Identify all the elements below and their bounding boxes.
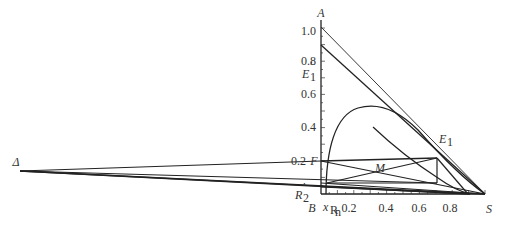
svg-text:1: 1: [447, 135, 453, 149]
line-E1p-S: [321, 45, 485, 194]
y-tick-label: 1.0: [301, 24, 316, 38]
hypotenuse-AS: [321, 27, 485, 194]
svg-text:x: x: [322, 200, 329, 214]
svg-text:′: ′: [310, 59, 313, 73]
svg-text:′: ′: [303, 180, 306, 194]
x-tick-label: 0.4: [379, 201, 394, 215]
y-tick-label: 0.6: [301, 87, 316, 101]
svg-text:R: R: [294, 188, 303, 202]
svg-text:E: E: [438, 132, 447, 146]
label-S: S: [486, 202, 492, 216]
label-delta: Δ: [11, 155, 19, 169]
y-tick-label: 0.4: [301, 120, 316, 134]
ternary-diagram: 1.0 0.8 0.6 0.4 0.2 0.2 0.4 0.6 0.8 A B …: [0, 0, 507, 225]
label-R2-prime: R 2 ′: [294, 180, 309, 205]
label-B: B: [308, 201, 316, 215]
label-E1: E 1: [438, 132, 453, 149]
y-tick-label: 0.8: [301, 54, 316, 68]
delta-line-F: [20, 161, 321, 171]
label-F: F: [309, 154, 318, 168]
y-tick-label: 0.2: [291, 154, 306, 168]
x-tick-label: 0.6: [412, 201, 427, 215]
svg-text:E: E: [301, 67, 310, 81]
label-A: A: [316, 6, 325, 20]
x-tick-label: 0.8: [443, 201, 458, 215]
svg-text:n: n: [335, 205, 341, 219]
label-xRn: x R n: [322, 200, 341, 219]
label-M: M: [374, 161, 386, 175]
x-tick-label: 0.2: [342, 201, 357, 215]
